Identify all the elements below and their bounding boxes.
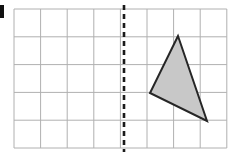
grid-figure-svg	[0, 0, 241, 160]
triangle-shape	[150, 36, 207, 121]
grid-group	[14, 9, 227, 148]
figure-canvas	[0, 0, 241, 160]
grid-vertical-lines	[14, 9, 227, 148]
